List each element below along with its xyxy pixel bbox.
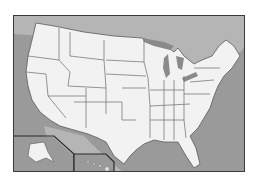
us-map <box>14 16 245 172</box>
map-frame <box>13 15 245 172</box>
